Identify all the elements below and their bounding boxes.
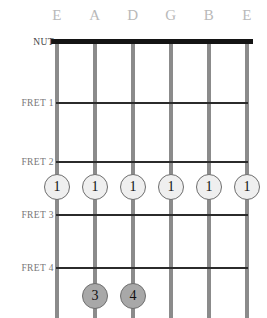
finger-dot-1-e-high[interactable]: 1	[234, 174, 260, 200]
string-label-1: E	[45, 6, 69, 24]
string-label-5: B	[197, 6, 221, 24]
fret-label-1: FRET 1	[10, 98, 54, 108]
finger-dot-4-d[interactable]: 4	[120, 283, 146, 309]
string-label-3: D	[121, 6, 145, 24]
nut-bar	[51, 39, 253, 44]
finger-dot-1-b[interactable]: 1	[196, 174, 222, 200]
guitar-chord-diagram: E A D G B E NUT FRET 1 FRET 2 FRET 3 FRE…	[0, 0, 267, 318]
finger-dot-1-g[interactable]: 1	[158, 174, 184, 200]
fret-label-4: FRET 4	[10, 263, 54, 273]
fret-label-2: FRET 2	[10, 157, 54, 167]
fret-line-3	[56, 214, 248, 216]
fret-line-1	[56, 102, 248, 104]
fret-line-4	[56, 267, 248, 269]
finger-dot-3-a[interactable]: 3	[82, 283, 108, 309]
nut-label: NUT	[10, 37, 54, 47]
fret-label-3: FRET 3	[10, 210, 54, 220]
finger-dot-1-e-low[interactable]: 1	[44, 174, 70, 200]
fret-line-2	[56, 161, 248, 163]
string-label-2: A	[83, 6, 107, 24]
finger-dot-1-d[interactable]: 1	[120, 174, 146, 200]
string-label-4: G	[159, 6, 183, 24]
finger-dot-1-a[interactable]: 1	[82, 174, 108, 200]
string-label-6: E	[235, 6, 259, 24]
